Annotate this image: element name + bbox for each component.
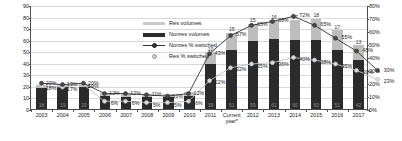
x-tick-label-line1: 2007	[120, 112, 132, 118]
legend-label: Res volumes	[169, 18, 201, 29]
nonres-pct-marker	[82, 81, 86, 85]
y-tick-label: 30	[7, 72, 29, 78]
legend-label: Res % switched	[169, 51, 209, 62]
y-tick-label: 10	[7, 95, 29, 101]
nonres-pct-label: 30%	[384, 67, 394, 73]
x-tick-label: 2008	[141, 112, 153, 118]
x-tick-label-line1: 2008	[141, 112, 153, 118]
y-tick-label-right: 40%	[369, 55, 393, 61]
x-tick-label-line1: 2013	[268, 112, 280, 118]
nonres-pct-marker	[124, 92, 128, 96]
y-tick-mark-right	[367, 58, 369, 59]
res-pct-label: 6%	[132, 100, 140, 106]
y-tick-label-right: 70%	[369, 16, 393, 22]
x-tick-mark	[327, 109, 328, 112]
x-tick-mark	[348, 109, 349, 112]
nonres-pct-label: 65%	[320, 21, 330, 27]
x-tick-mark	[31, 109, 32, 112]
x-tick-mark	[242, 109, 243, 112]
nonres-pct-marker	[355, 49, 359, 53]
y-tick-mark-right	[367, 32, 369, 33]
nonres-pct-marker	[187, 92, 191, 96]
x-tick-mark	[285, 109, 286, 112]
res-pct-marker	[103, 99, 107, 103]
x-tick-mark	[200, 109, 201, 112]
nonres-pct-marker	[334, 36, 338, 40]
res-pct-label: 17%	[67, 86, 77, 92]
y-tick-label: 90	[7, 3, 29, 9]
x-tick-label: Currentyear*	[223, 112, 241, 125]
y-tick-label: 40	[7, 61, 29, 67]
x-tick-mark	[52, 109, 53, 112]
x-tick-label-line1: 2005	[78, 112, 90, 118]
res-pct-label: 40%	[299, 56, 309, 62]
legend-swatch-res-volumes	[143, 18, 165, 29]
nonres-pct-label: 72%	[299, 12, 309, 18]
nonres-pct-marker	[313, 23, 317, 27]
nonres-pct-label: 55%	[342, 34, 352, 40]
res-pct-label: 6%	[195, 100, 203, 106]
y-tick-label: 20	[7, 84, 29, 90]
y-tick-label-right: 60%	[369, 29, 393, 35]
res-pct-marker	[313, 58, 317, 62]
x-tick-label: 2015	[310, 112, 322, 118]
x-tick-mark	[369, 109, 370, 112]
res-pct-marker	[166, 101, 170, 105]
res-pct-marker	[187, 99, 191, 103]
y-tick-label: 80	[7, 15, 29, 21]
plot-area: Competitive energy sales (TWh) 010203040…	[30, 6, 368, 110]
y-tick-label-right: 0%	[369, 107, 393, 113]
x-tick-label: 2010	[184, 112, 196, 118]
nonres-pct-label: 45%	[363, 47, 373, 53]
res-pct-marker	[208, 79, 212, 83]
y-tick-label: 60	[7, 38, 29, 44]
res-pct-label: 23%	[384, 78, 394, 84]
nonres-pct-label: 57%	[236, 31, 246, 37]
nonres-pct-label: 10%	[173, 93, 183, 99]
x-tick-label: 2011	[205, 112, 216, 118]
x-tick-label-line1: 2017	[353, 112, 365, 118]
x-tick-mark	[263, 109, 264, 112]
y-tick-mark-right	[367, 97, 369, 98]
x-tick-label: 2007	[120, 112, 132, 118]
legend-label: Nonres volumes	[169, 29, 209, 40]
res-pct-marker	[334, 62, 338, 66]
x-tick-label-line1: 2003	[36, 112, 48, 118]
nonres-pct-label: 65%	[257, 21, 267, 27]
x-tick-mark	[94, 109, 95, 112]
res-pct-label: 18%	[46, 85, 56, 91]
res-pct-label: 35%	[257, 63, 267, 69]
res-pct-marker	[229, 66, 233, 70]
nonres-pct-label: 12%	[109, 90, 119, 96]
x-tick-label-line1: 2010	[184, 112, 196, 118]
legend-swatch-nonres-volumes	[143, 29, 165, 40]
x-tick-mark	[306, 109, 307, 112]
nonres-pct-marker	[376, 68, 380, 72]
x-tick-mark	[158, 109, 159, 112]
nonres-pct-label: 12%	[130, 90, 140, 96]
y-tick-label-right: 10%	[369, 94, 393, 100]
y-tick-label-right: 80%	[369, 3, 393, 9]
nonres-pct-marker	[61, 83, 65, 87]
res-pct-marker	[124, 99, 128, 103]
x-tick-label: 2017	[353, 112, 365, 118]
nonres-pct-label: 11%	[152, 91, 162, 97]
nonres-pct-marker	[250, 23, 254, 27]
y-tick-mark-right	[367, 45, 369, 46]
x-tick-label: 2012	[247, 112, 259, 118]
x-tick-label: 2003	[36, 112, 48, 118]
x-tick-label: 2009	[162, 112, 174, 118]
x-tick-mark	[179, 109, 180, 112]
nonres-pct-marker	[292, 14, 296, 18]
res-pct-label: 32%	[236, 66, 246, 72]
x-tick-label-line1: 2014	[289, 112, 301, 118]
y-tick-label: 70	[7, 26, 29, 32]
legend-swatch-nonres-pct	[143, 40, 165, 51]
x-tick-label: 2016	[331, 112, 343, 118]
x-tick-label-line1: 2011	[205, 112, 216, 118]
y-tick-mark-right	[367, 6, 369, 7]
nonres-pct-marker	[229, 34, 233, 38]
res-pct-marker	[250, 62, 254, 66]
x-tick-label-line1: 2015	[310, 112, 322, 118]
res-pct-label: 36%	[278, 61, 288, 67]
